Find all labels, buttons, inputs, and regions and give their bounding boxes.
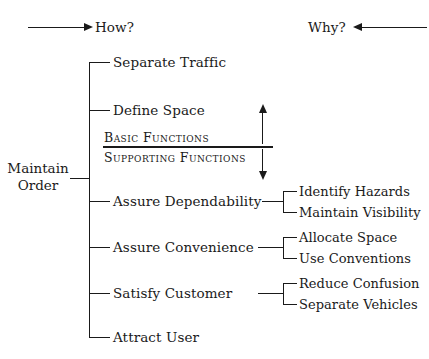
band-label-basic-functions: Basic Functions bbox=[104, 130, 209, 145]
branch-stub-satisfy-customer bbox=[89, 293, 110, 294]
branch-label-satisfy-customer: Satisfy Customer bbox=[113, 285, 232, 301]
why-label: Why? bbox=[308, 19, 346, 35]
child-stub-reduce-confusion bbox=[283, 283, 297, 284]
child-stub-separate-vehicles bbox=[283, 304, 297, 305]
branch-label-assure-dependability: Assure Dependability bbox=[113, 193, 262, 209]
child-label-reduce-confusion: Reduce Confusion bbox=[299, 276, 419, 291]
branch-stub-assure-dependability bbox=[89, 201, 110, 202]
why-arrow-shaft bbox=[361, 27, 427, 28]
band-scale-arrow-shaft-lower bbox=[262, 149, 263, 172]
band-label-supporting-functions: Supporting Functions bbox=[104, 150, 246, 165]
root-label-line-2: Order bbox=[4, 177, 72, 194]
subbranch-bracket-satisfy-customer bbox=[283, 283, 284, 304]
branch-stub-attract-user bbox=[89, 337, 110, 338]
branch-label-separate-traffic: Separate Traffic bbox=[113, 54, 226, 70]
band-scale-arrowhead-down-icon bbox=[259, 171, 267, 180]
child-label-maintain-visibility: Maintain Visibility bbox=[299, 205, 421, 220]
subbranch-bracket-assure-convenience bbox=[283, 237, 284, 258]
branch-label-assure-convenience: Assure Convenience bbox=[113, 239, 254, 255]
root-node-maintain-order: Maintain Order bbox=[4, 160, 72, 194]
function-analysis-diagram: How? Why? Maintain Order Separate Traffi… bbox=[0, 0, 429, 359]
subbranch-connector-assure-dependability bbox=[262, 201, 284, 202]
band-scale-arrow-shaft-upper bbox=[262, 112, 263, 144]
child-label-identify-hazards: Identify Hazards bbox=[299, 184, 410, 199]
branch-label-define-space: Define Space bbox=[113, 102, 205, 118]
branch-label-attract-user: Attract User bbox=[113, 329, 199, 345]
child-stub-maintain-visibility bbox=[283, 212, 297, 213]
root-connector bbox=[70, 178, 90, 179]
branch-stub-separate-traffic bbox=[89, 62, 110, 63]
subbranch-bracket-assure-dependability bbox=[283, 191, 284, 212]
subbranch-connector-assure-convenience bbox=[258, 247, 284, 248]
how-arrow-shaft bbox=[28, 27, 86, 28]
branch-stub-define-space bbox=[89, 110, 110, 111]
how-arrowhead-icon bbox=[84, 23, 93, 31]
main-trunk-line bbox=[89, 62, 90, 337]
band-divider-line bbox=[103, 146, 273, 148]
root-label-line-1: Maintain bbox=[4, 160, 72, 177]
child-label-separate-vehicles: Separate Vehicles bbox=[299, 297, 418, 312]
how-label: How? bbox=[95, 19, 134, 35]
child-label-use-conventions: Use Conventions bbox=[299, 251, 411, 266]
child-label-allocate-space: Allocate Space bbox=[299, 230, 397, 245]
child-stub-use-conventions bbox=[283, 258, 297, 259]
subbranch-connector-satisfy-customer bbox=[258, 293, 284, 294]
branch-stub-assure-convenience bbox=[89, 247, 110, 248]
child-stub-identify-hazards bbox=[283, 191, 297, 192]
child-stub-allocate-space bbox=[283, 237, 297, 238]
